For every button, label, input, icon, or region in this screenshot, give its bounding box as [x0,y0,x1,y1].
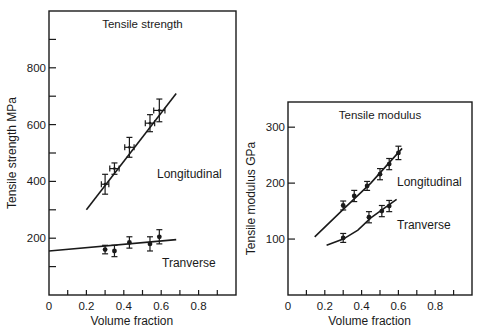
data-point [340,233,346,242]
x-tick-label: 0.2 [78,300,94,312]
data-point [379,205,385,216]
data-point [126,237,132,248]
series-label: Longitudinal [157,167,222,181]
x-axis-label: Volume fraction [328,314,411,328]
chart-title: Tensile modulus [339,109,422,121]
data-point [395,146,401,159]
series-label: Tranverse [162,256,216,270]
data-point [147,237,153,251]
y-tick-label: 200 [266,177,285,189]
x-tick-label: 0 [285,300,291,312]
y-axis-label: Tensile modulus GPa [244,141,258,255]
x-tick-label: 0 [46,300,52,312]
y-tick-label: 600 [27,119,46,131]
y-tick-label: 300 [266,121,285,133]
data-point [145,115,154,132]
series-label: Tranverse [397,218,451,232]
x-tick-label: 0.6 [390,300,406,312]
series-label: Longitudinal [397,175,462,189]
y-tick-label: 200 [27,232,46,244]
x-tick-label: 0.8 [191,300,207,312]
data-point [125,137,134,157]
data-point [340,201,346,210]
x-tick-label: 0.4 [354,300,371,312]
tensile-modulus-chart: Tensile modulus00.20.40.60.8100200300Vol… [244,102,472,328]
y-axis-label: Tensile strength MPa [5,97,19,209]
x-tick-label: 0.8 [427,300,443,312]
data-point [111,245,117,256]
plot-frame [288,102,472,295]
y-tick-label: 800 [27,62,46,74]
series-tranverse: Tranverse [49,230,216,270]
x-tick-label: 0.2 [317,300,333,312]
y-tick-label: 400 [27,175,46,187]
chart-title: Tensile strength [102,18,183,30]
x-tick-label: 0.6 [153,300,169,312]
series-longitudinal: Longitudinal [86,93,221,209]
y-tick-label: 100 [266,233,285,245]
figure: Tensile strength00.20.40.60.820040060080… [0,0,481,335]
data-point [110,163,119,174]
x-axis-label: Volume fraction [90,314,173,328]
data-point [154,99,165,122]
data-point [101,174,108,194]
x-tick-label: 0.4 [116,300,133,312]
tensile-strength-chart: Tensile strength00.20.40.60.820040060080… [5,11,236,328]
plot-frame [49,11,236,295]
fit-line [327,199,397,245]
